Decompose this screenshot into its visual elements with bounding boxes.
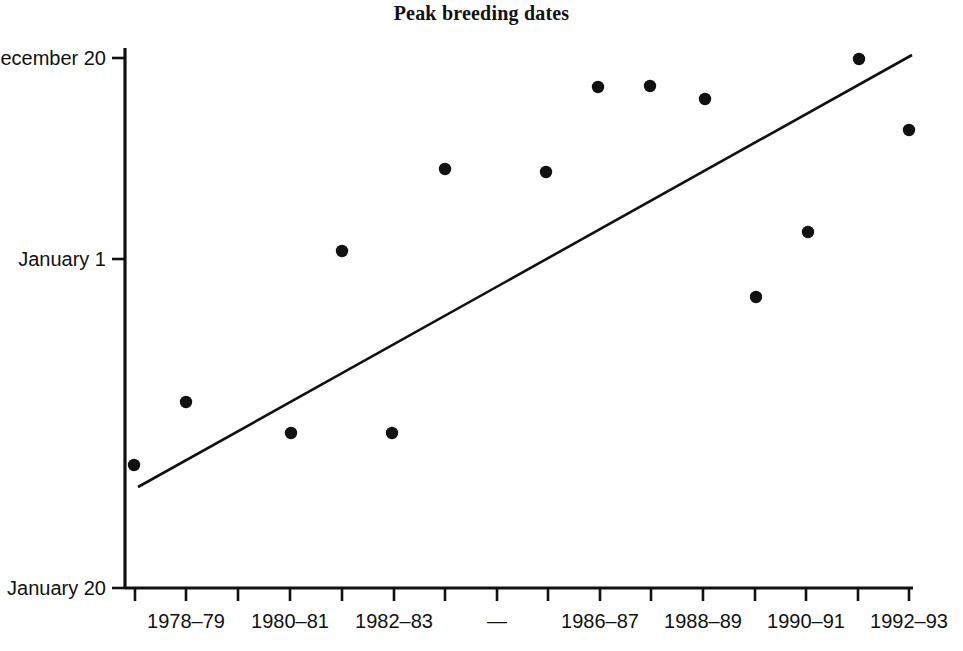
data-point: 1982–83: December 26 (439, 163, 451, 175)
data-point: 1988–89: January 2 (750, 291, 762, 303)
data-point: 1987–88: December 23 (699, 93, 711, 105)
trend-line (138, 55, 912, 487)
data-point: 1977–78: January 4 (128, 459, 140, 471)
x-tick-label-dash: — (487, 610, 507, 632)
data-point: 1989–90: December 30 (802, 226, 814, 238)
y-tick-marks (112, 58, 125, 588)
data-point: 1981–82: January 3 (386, 427, 398, 439)
data-point: 1979–80: January 3 (285, 427, 297, 439)
y-tick-label-december-20: December 20 (0, 47, 106, 69)
x-tick-label-1982-83: 1982–83 (355, 610, 433, 632)
x-tick-label-1988-89: 1988–89 (664, 610, 742, 632)
data-point: 1986–87: December 22 (644, 80, 656, 92)
data-point: 1983–84: December 26 (540, 166, 552, 178)
x-tick-label-1992-93: 1992–93 (870, 610, 948, 632)
data-point: 1980–81: December 31 (336, 245, 348, 257)
x-tick-label-1980-81: 1980–81 (251, 610, 329, 632)
data-point: 1978–79: January 1 (180, 396, 192, 408)
chart-page: Peak breeding dates December 20 January … (0, 0, 963, 651)
y-tick-label-january-1: January 1 (18, 248, 106, 270)
data-point: 1991–92: December 20 (853, 53, 865, 65)
x-tick-marks (135, 588, 909, 601)
data-point: 1992–93: December 24 (903, 124, 915, 136)
x-tick-label-1986-87: 1986–87 (561, 610, 639, 632)
x-tick-label-1990-91: 1990–91 (767, 610, 845, 632)
y-tick-label-january-20: January 20 (7, 577, 106, 599)
x-tick-label-1978-79: 1978–79 (147, 610, 225, 632)
data-point: 1985–86: December 22 (592, 81, 604, 93)
scatter-plot: December 20 January 1 January 20 1978–79… (0, 0, 963, 651)
data-point-group: 1977–78: January 41978–79: January 11979… (128, 53, 915, 471)
